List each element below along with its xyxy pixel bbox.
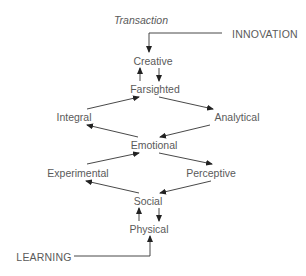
node-farsighted: Farsighted: [130, 83, 180, 95]
learning-connector: [74, 236, 150, 256]
diagram-canvas: Transaction INNOVATION Creative Farsight…: [0, 0, 306, 276]
integral-to-farsighted-arrow: [87, 97, 139, 109]
node-physical: Physical: [129, 223, 168, 235]
innovation-label: INNOVATION: [232, 28, 298, 40]
emotional-to-integral-arrow: [87, 125, 138, 137]
social-to-experimental-arrow: [86, 181, 139, 193]
node-social: Social: [134, 195, 163, 207]
learning-label: LEARNING: [16, 251, 71, 263]
transaction-header: Transaction: [114, 14, 168, 26]
perceptive-to-social-arrow: [160, 181, 211, 193]
node-emotional: Emotional: [131, 139, 178, 151]
innovation-connector: [149, 33, 222, 52]
node-experimental: Experimental: [47, 167, 108, 179]
experimental-to-emotional-arrow: [87, 153, 139, 164]
analytical-to-emotional-arrow: [160, 125, 210, 137]
node-integral: Integral: [56, 111, 91, 123]
farsighted-to-analytical-arrow: [159, 97, 213, 109]
node-creative: Creative: [133, 55, 172, 67]
node-analytical: Analytical: [215, 111, 260, 123]
node-perceptive: Perceptive: [186, 167, 236, 179]
emotional-to-perceptive-arrow: [159, 153, 212, 164]
